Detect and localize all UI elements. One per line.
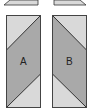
panel-b-label: B xyxy=(66,56,73,67)
diagram-canvas xyxy=(0,0,91,110)
top-left-partial-shape xyxy=(4,0,38,5)
panel-a-label: A xyxy=(20,56,27,67)
top-right-partial-shape xyxy=(54,0,86,5)
